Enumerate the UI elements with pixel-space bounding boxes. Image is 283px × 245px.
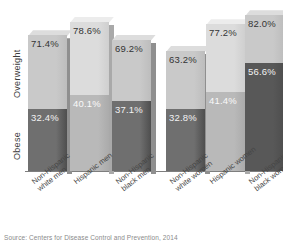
segment-overweight: 69.2% bbox=[112, 40, 151, 101]
bar-2: 78.6%40.1% bbox=[70, 22, 109, 171]
y-axis-category-obese: Obese bbox=[12, 132, 22, 160]
segment-overweight: 71.4% bbox=[28, 35, 67, 109]
value-label-overweight: 69.2% bbox=[115, 43, 143, 54]
segment-overweight: 77.2% bbox=[206, 24, 245, 92]
value-label-overweight: 82.0% bbox=[248, 18, 276, 29]
bar-5: 77.2%41.4% bbox=[206, 24, 245, 171]
value-label-overweight: 71.4% bbox=[31, 38, 59, 49]
segment-overweight: 78.6% bbox=[70, 22, 109, 95]
value-label-obese: 41.4% bbox=[209, 95, 237, 106]
value-label-obese: 32.8% bbox=[169, 112, 197, 123]
value-label-overweight: 63.2% bbox=[169, 54, 197, 65]
value-label-obese: 56.6% bbox=[248, 66, 276, 77]
source-note: Source: Centers for Disease Control and … bbox=[4, 234, 178, 241]
value-label-overweight: 78.6% bbox=[73, 25, 101, 36]
value-label-obese: 37.1% bbox=[115, 104, 143, 115]
value-label-obese: 40.1% bbox=[73, 98, 101, 109]
bar-1: 71.4%32.4% bbox=[28, 35, 67, 171]
value-label-overweight: 77.2% bbox=[209, 27, 237, 38]
segment-overweight: 63.2% bbox=[166, 51, 205, 109]
stacked-bar-chart: Overweight Obese 71.4%32.4%78.6%40.1%69.… bbox=[0, 0, 283, 245]
segment-overweight: 82.0% bbox=[245, 15, 283, 63]
bar-3: 69.2%37.1% bbox=[112, 40, 151, 171]
y-axis-category-overweight: Overweight bbox=[12, 49, 22, 98]
value-label-obese: 32.4% bbox=[31, 112, 59, 123]
